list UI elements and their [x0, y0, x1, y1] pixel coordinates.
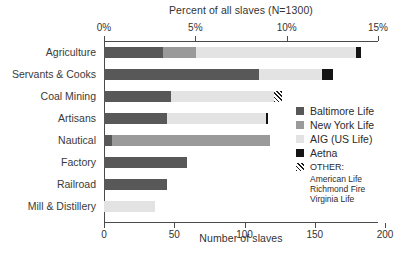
category-label-coal-mining: Coal Mining — [41, 90, 96, 102]
legend: Baltimore LifeNew York LifeAIG (US Life)… — [296, 104, 401, 204]
bar-segment-baltimore — [104, 157, 187, 168]
top-tick-mark-0 — [104, 36, 105, 41]
top-tick-label-3: 15% — [368, 22, 388, 33]
bar-segment-aetna — [322, 69, 333, 80]
legend-item-other: OTHER: — [296, 160, 401, 173]
bottom-axis-title: Number of slaves — [104, 232, 378, 244]
bar-row — [104, 91, 378, 102]
bar-segment-baltimore — [104, 135, 112, 146]
bottom-tick-mark-4 — [385, 223, 386, 228]
legend-swatch-aetna-icon — [296, 149, 304, 157]
legend-swatch-aig-icon — [296, 135, 304, 143]
bar-segment-newyork — [163, 47, 196, 58]
legend-item-newyork: New York Life — [296, 118, 401, 131]
top-tick-mark-2 — [287, 36, 288, 41]
legend-label: Baltimore Life — [310, 105, 374, 117]
bar-segment-other — [274, 91, 281, 102]
bottom-tick-label-4: 200 — [377, 229, 394, 240]
bar-segment-aetna — [356, 47, 361, 58]
legend-entries: Baltimore LifeNew York LifeAIG (US Life)… — [296, 104, 401, 173]
bar-segment-aig — [259, 69, 322, 80]
top-tick-mark-1 — [195, 36, 196, 41]
legend-label: OTHER: — [310, 162, 344, 172]
bar-row — [104, 47, 378, 58]
category-label-agriculture: Agriculture — [46, 46, 96, 58]
top-tick-mark-3 — [378, 36, 379, 41]
bar-row — [104, 69, 378, 80]
legend-other-member: Virginia Life — [310, 194, 401, 204]
top-axis-title: Percent of all slaves (N=1300) — [104, 4, 378, 16]
legend-label: Aetna — [310, 147, 337, 159]
category-label-railroad: Railroad — [57, 178, 96, 190]
bar-segment-baltimore — [104, 179, 167, 190]
legend-other-member: Richmond Fire — [310, 184, 401, 194]
bottom-tick-mark-1 — [174, 223, 175, 228]
legend-label: New York Life — [310, 119, 374, 131]
bar-segment-newyork — [112, 135, 270, 146]
bar-segment-aig — [104, 201, 155, 212]
category-label-artisans: Artisans — [58, 112, 96, 124]
top-tick-label-1: 5% — [188, 22, 202, 33]
bottom-tick-mark-0 — [104, 223, 105, 228]
top-axis-line — [104, 41, 378, 42]
category-label-servants-cooks: Servants & Cooks — [12, 68, 96, 80]
bottom-tick-mark-3 — [315, 223, 316, 228]
bottom-axis-line — [104, 222, 378, 223]
chart-container: Percent of all slaves (N=1300) 0%5%10%15… — [0, 0, 403, 255]
bar-segment-aig — [196, 47, 356, 58]
legend-item-aetna: Aetna — [296, 146, 401, 159]
legend-swatch-other-icon — [296, 163, 304, 171]
legend-item-baltimore: Baltimore Life — [296, 104, 401, 117]
bar-segment-baltimore — [104, 113, 167, 124]
legend-other-member: American Life — [310, 174, 401, 184]
category-label-nautical: Nautical — [58, 134, 96, 146]
bottom-tick-mark-2 — [245, 223, 246, 228]
bar-segment-baltimore — [104, 69, 259, 80]
legend-label: AIG (US Life) — [310, 133, 372, 145]
legend-other-members: American LifeRichmond FireVirginia Life — [310, 174, 401, 204]
legend-item-aig: AIG (US Life) — [296, 132, 401, 145]
bar-segment-aig — [167, 113, 266, 124]
top-tick-label-2: 10% — [277, 22, 297, 33]
category-label-factory: Factory — [61, 156, 96, 168]
legend-swatch-newyork-icon — [296, 121, 304, 129]
bar-segment-baltimore — [104, 91, 171, 102]
bar-segment-baltimore — [104, 47, 163, 58]
bar-segment-aetna — [266, 113, 269, 124]
legend-swatch-baltimore-icon — [296, 107, 304, 115]
top-tick-label-0: 0% — [97, 22, 111, 33]
category-label-mill-distillery: Mill & Distillery — [28, 200, 96, 212]
bar-segment-aig — [171, 91, 274, 102]
